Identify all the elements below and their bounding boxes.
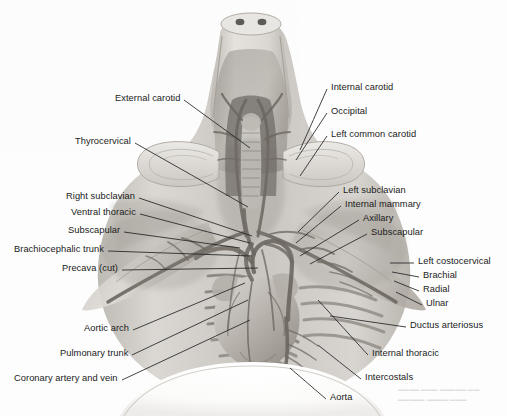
label-right-subclavian: Right subclavian	[66, 192, 135, 201]
label-intercostals: Intercostals	[365, 373, 413, 382]
label-coronary-artery-vein: Coronary artery and vein	[14, 374, 118, 383]
tissue-flap-right	[283, 142, 365, 187]
label-radial: Radial	[423, 285, 450, 294]
figure-canvas: External carotidThyrocervicalRight subcl…	[0, 0, 507, 416]
label-internal-thoracic: Internal thoracic	[372, 349, 439, 358]
label-aortic-arch: Aortic arch	[84, 324, 129, 333]
label-thyrocervical: Thyrocervical	[75, 137, 131, 146]
label-brachial: Brachial	[423, 271, 457, 280]
label-occipital: Occipital	[331, 107, 367, 116]
label-ventral-thoracic: Ventral thoracic	[71, 208, 136, 217]
label-left-common-carotid: Left common carotid	[331, 130, 416, 139]
nostril-right	[258, 19, 267, 25]
label-ductus-arteriosus: Ductus arteriosus	[410, 321, 483, 330]
label-internal-carotid: Internal carotid	[331, 83, 393, 92]
label-aorta: Aorta	[330, 393, 352, 402]
label-subscapular-right: Subscapular	[371, 228, 423, 237]
tissue-flap-left	[138, 142, 220, 187]
label-left-costocervical: Left costocervical	[418, 257, 491, 266]
label-subscapular-left: Subscapular	[68, 226, 120, 235]
label-precava-cut: Precava (cut)	[62, 264, 118, 273]
label-left-subclavian: Left subclavian	[343, 186, 406, 195]
label-internal-mammary: Internal mammary	[345, 200, 421, 209]
label-external-carotid: External carotid	[115, 94, 180, 103]
label-pulmonary-trunk: Pulmonary trunk	[60, 349, 128, 358]
label-brachiocephalic-trunk: Brachiocephalic trunk	[14, 245, 104, 254]
nostril-left	[236, 19, 245, 25]
label-ulnar: Ulnar	[426, 299, 448, 308]
label-axillary: Axillary	[363, 214, 393, 223]
